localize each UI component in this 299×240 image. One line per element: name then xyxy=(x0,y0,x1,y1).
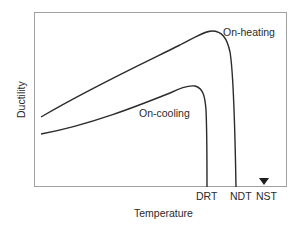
ndt-tick-label: NDT xyxy=(230,191,252,202)
x-axis-label: Temperature xyxy=(134,208,193,219)
y-axis-label: Ductility xyxy=(16,81,27,118)
on-cooling-label: On-cooling xyxy=(139,108,190,119)
nst-tick-label: NST xyxy=(256,191,277,202)
drt-tick-label: DRT xyxy=(196,191,217,202)
on-cooling-curve xyxy=(41,86,207,187)
on-heating-label: On-heating xyxy=(223,27,275,38)
nst-marker-icon xyxy=(259,178,269,185)
